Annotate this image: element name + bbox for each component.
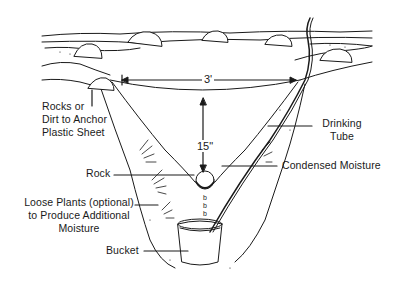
- svg-text:b: b: [203, 194, 207, 201]
- label-drinking-tube: Drinking Tube: [316, 117, 368, 143]
- label-condensed-moisture: Condensed Moisture: [282, 159, 381, 172]
- label-rocks-anchor: Rocks or Dirt to Anchor Plastic Sheet: [42, 100, 107, 139]
- svg-text:b: b: [203, 202, 207, 209]
- label-rock: Rock: [86, 167, 110, 180]
- width-dimension-label: 3': [202, 73, 214, 85]
- depth-dimension-label: 15": [195, 140, 215, 152]
- svg-text:b: b: [203, 210, 207, 217]
- pit-wall-left: [100, 86, 175, 268]
- pit-wall-right: [235, 84, 305, 262]
- label-bucket: Bucket: [106, 244, 139, 257]
- label-loose-plants: Loose Plants (optional) to Produce Addit…: [20, 196, 138, 235]
- left-bank: [42, 62, 110, 75]
- plastic-sheet-left: [112, 82, 195, 182]
